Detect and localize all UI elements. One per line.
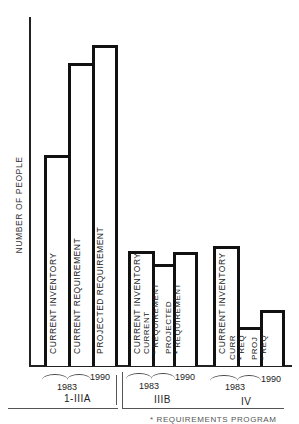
- bar-label: CURRENT* REQUIREMENT: [142, 283, 160, 354]
- group-underline: [8, 408, 118, 409]
- bar-label: CURRENT INVENTORY: [133, 252, 142, 354]
- bar-label-line1: PROJECTED: [164, 301, 173, 354]
- year-brace-1990: [237, 375, 261, 381]
- year-brace-1983: [42, 374, 68, 380]
- bar-label: CURRENT REQUIREMENT: [73, 238, 82, 354]
- bar-label-line2: * REQ: [259, 335, 268, 360]
- group-label-IIIB: IIIB: [154, 394, 171, 405]
- bar-g1-current-inventory: CURRENT INVENTORY: [44, 155, 71, 366]
- group-underline: [122, 408, 284, 409]
- bar-label: CURRENT INVENTORY: [49, 252, 58, 354]
- group-label-1-IIIA: 1-IIIA: [64, 393, 91, 404]
- bar-label-line2: * REQUIREMENT: [151, 283, 160, 354]
- bar-label: CURR* REQ: [228, 335, 246, 360]
- bar-label: CURRENT INVENTORY: [218, 252, 227, 354]
- bar-g1-projected-requirement: PROJECTED REQUIREMENT: [92, 45, 118, 366]
- year-brace-1990: [151, 373, 175, 379]
- tick-1983: 1983: [225, 382, 245, 392]
- bar-label: PROJECTED* REQUIREMENT: [164, 283, 182, 354]
- bar-g3-projected-requirement: PROJ* REQ: [260, 310, 285, 366]
- group-divider: [116, 375, 117, 405]
- year-brace-1990: [67, 374, 91, 380]
- bar-label-line1: PROJ: [250, 337, 259, 360]
- tick-1990: 1990: [90, 372, 110, 382]
- tick-1983: 1983: [57, 382, 77, 392]
- y-axis-label: NUMBER OF PEOPLE: [14, 157, 24, 254]
- bar-g2-projected-requirement: PROJECTED* REQUIREMENT: [173, 252, 198, 366]
- group-label-IV: IV: [241, 396, 251, 407]
- bar-label-line1: CURR: [228, 335, 237, 360]
- group-divider: [122, 372, 123, 408]
- bar-g1-current-requirement: CURRENT REQUIREMENT: [68, 63, 95, 366]
- tick-1990: 1990: [261, 374, 281, 384]
- bar-label-line2: * REQ: [237, 335, 246, 360]
- year-brace-1983: [210, 375, 238, 381]
- tick-1990: 1990: [175, 372, 195, 382]
- bar-label-line2: * REQUIREMENT: [173, 283, 182, 354]
- year-brace-1983: [126, 373, 152, 379]
- y-axis: [29, 17, 31, 367]
- bar-label: PROJECTED REQUIREMENT: [96, 227, 105, 354]
- footnote: * REQUIREMENTS PROGRAM: [150, 415, 277, 424]
- bar-label: PROJ* REQ: [250, 335, 268, 360]
- tick-1983: 1983: [139, 381, 159, 391]
